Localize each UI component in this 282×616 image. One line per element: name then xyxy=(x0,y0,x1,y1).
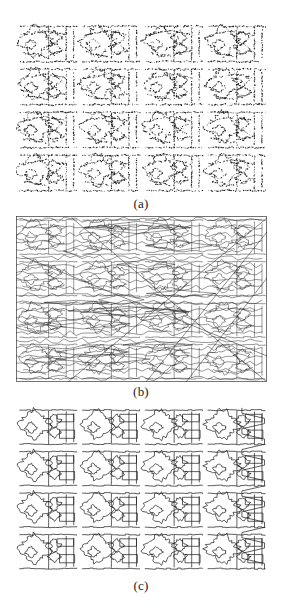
caption-b: (b) xyxy=(0,384,282,400)
panel-b-contour-network xyxy=(16,216,267,382)
panel-c-canvas xyxy=(16,406,267,572)
panel-a-canvas xyxy=(16,22,267,194)
panel-a-stippled-texture xyxy=(16,22,267,194)
figure-sheet: (a) (b) (c) xyxy=(0,0,282,616)
panel-c-contour-outlines xyxy=(16,406,267,572)
caption-c: (c) xyxy=(0,578,282,594)
panel-b-canvas xyxy=(16,216,267,382)
caption-a: (a) xyxy=(0,196,282,212)
